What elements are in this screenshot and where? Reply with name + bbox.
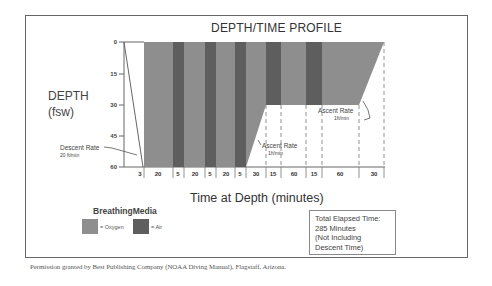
y-tick-label: 30	[110, 102, 117, 108]
y-tick-label: 0	[114, 39, 118, 45]
segment-label: 20	[192, 171, 199, 177]
bar-oxygen	[322, 42, 359, 105]
legend-label-oxygen: = Oxygen	[100, 224, 124, 230]
bar-oxygen-ascent	[359, 42, 384, 105]
ascent-rate-value-2: 1ft/min	[334, 115, 349, 121]
descent-arrow	[104, 147, 137, 155]
y-ticks	[119, 42, 124, 167]
segment-label: 3	[138, 171, 142, 177]
bar-oxygen	[184, 42, 205, 167]
segment-label: 5	[176, 171, 180, 177]
segment-label: 20	[155, 171, 162, 177]
total-line: Descent Time)	[315, 243, 390, 253]
ascent-rate-label-1: Ascent Rate	[262, 142, 298, 149]
segment-label: 5	[208, 171, 212, 177]
segment-label: 15	[270, 171, 277, 177]
bar-air	[306, 42, 322, 105]
bar-oxygen	[216, 42, 235, 167]
ascent-arrow-2	[363, 101, 370, 120]
bar-air	[235, 42, 246, 167]
y-axis-label-line1: DEPTH	[48, 88, 89, 104]
segment-label: 5	[238, 171, 242, 177]
legend-title: BreathingMedia	[93, 206, 157, 216]
total-line: (Not Including	[315, 233, 390, 243]
y-axis-label-line2: (fsw)	[48, 104, 89, 120]
bar-air	[173, 42, 184, 167]
total-line: 285 Minutes	[315, 224, 390, 234]
descent-line	[124, 42, 143, 167]
total-elapsed-time-box: Total Elapsed Time: 285 Minutes (Not Inc…	[309, 210, 396, 255]
segment-label: 30	[253, 171, 260, 177]
permission-credit: Permission granted by Best Publishing Co…	[30, 263, 286, 270]
legend-item-air: = Air	[133, 219, 162, 234]
depth-time-plot: 0 15 30 45 60	[0, 0, 492, 286]
segment-label: 20	[223, 171, 230, 177]
segment-separators	[144, 167, 384, 178]
bar-oxygen	[281, 42, 306, 105]
segment-label: 15	[311, 171, 318, 177]
bar-air	[205, 42, 216, 167]
x-axis-label: Time at Depth (minutes)	[190, 191, 324, 205]
legend-item-oxygen: = Oxygen	[82, 219, 124, 234]
ascent-rate-label-2: Ascent Rate	[318, 107, 354, 114]
segment-label: 30	[371, 171, 378, 177]
bar-oxygen	[144, 42, 173, 167]
ascent-arrow-1	[258, 140, 261, 145]
y-tick-label: 45	[110, 133, 117, 139]
segment-label: 60	[337, 171, 344, 177]
descent-rate-label: Descent Rate	[60, 144, 100, 151]
descent-rate-value: 20 ft/min	[60, 152, 79, 158]
segment-label: 60	[291, 171, 298, 177]
air-swatch	[133, 219, 149, 234]
oxygen-swatch	[82, 219, 98, 234]
y-axis-label: DEPTH (fsw)	[48, 88, 89, 120]
bar-air	[266, 42, 281, 105]
legend-label-air: = Air	[151, 224, 162, 230]
y-tick-label: 15	[110, 71, 117, 77]
ascent-rate-value-1: 1ft/min	[268, 150, 283, 156]
y-tick-label: 60	[110, 164, 117, 170]
total-line: Total Elapsed Time:	[315, 214, 390, 224]
